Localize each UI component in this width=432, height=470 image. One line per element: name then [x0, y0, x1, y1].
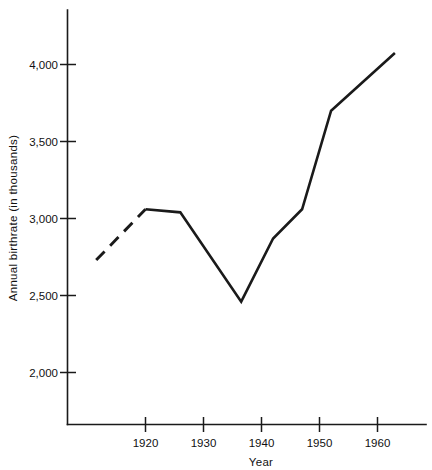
y-tick-label-3000: 3,000	[29, 213, 58, 225]
x-tick-label-1960: 1960	[365, 437, 391, 449]
y-axis-title: Annual birthrate (in thousands)	[7, 135, 19, 302]
x-tick-label-1940: 1940	[249, 437, 275, 449]
y-tick-label-2500: 2,500	[29, 290, 58, 302]
x-axis-title: Year	[249, 456, 273, 468]
y-tick-label-3500: 3,500	[29, 136, 58, 148]
x-tick-label-1950: 1950	[307, 437, 333, 449]
x-tick-label-1920: 1920	[133, 437, 159, 449]
x-tick-label-1930: 1930	[191, 437, 217, 449]
chart-canvas: 4,000 3,500 3,000 2,500 2,000 1920 1930 …	[0, 0, 432, 470]
series-estimated-birthrate-dashed	[96, 209, 145, 260]
y-tick-label-2000: 2,000	[29, 367, 58, 379]
y-tick-label-4000: 4,000	[29, 59, 58, 71]
birthrate-line-chart: 4,000 3,500 3,000 2,500 2,000 1920 1930 …	[0, 0, 432, 470]
series-annual-birthrate-solid	[146, 53, 395, 302]
